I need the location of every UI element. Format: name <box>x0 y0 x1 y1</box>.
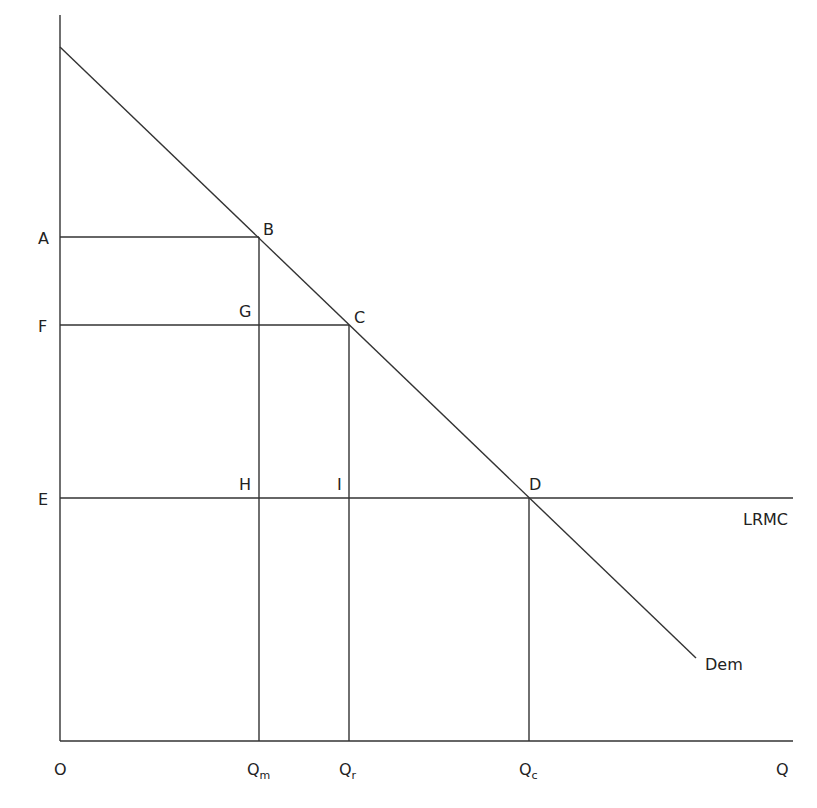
label-demand: Dem <box>705 655 743 674</box>
label-i: I <box>337 475 342 494</box>
label-e: E <box>38 490 48 509</box>
label-h: H <box>239 475 251 494</box>
label-qr-main: Q <box>339 760 352 779</box>
label-qc-main: Q <box>519 760 532 779</box>
label-c: C <box>354 308 365 327</box>
label-qm: Qm <box>247 760 270 782</box>
label-origin: O <box>54 760 67 779</box>
label-qm-sub: m <box>260 769 271 782</box>
label-f: F <box>38 317 47 336</box>
label-qr: Qr <box>339 760 357 782</box>
label-qc: Qc <box>519 760 538 782</box>
label-b: B <box>263 220 274 239</box>
label-g: G <box>239 302 251 321</box>
demand-curve <box>60 47 696 658</box>
label-lrmc: LRMC <box>743 510 788 529</box>
label-qr-sub: r <box>352 769 357 782</box>
diagram-canvas: A F E B C D G H I LRMC Dem O Q Qm Qr Qc <box>0 0 817 808</box>
label-a: A <box>38 229 49 248</box>
label-d: D <box>529 475 541 494</box>
label-qm-main: Q <box>247 760 260 779</box>
label-qc-sub: c <box>532 769 538 782</box>
label-q-axis: Q <box>776 760 789 779</box>
